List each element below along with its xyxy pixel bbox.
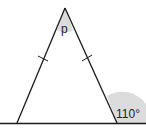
exterior-angle-label: 110° <box>116 107 140 121</box>
left-side <box>17 8 65 123</box>
triangle-diagram: p 110° <box>0 0 146 133</box>
apex-angle-label: p <box>61 22 68 36</box>
right-side <box>65 8 117 123</box>
